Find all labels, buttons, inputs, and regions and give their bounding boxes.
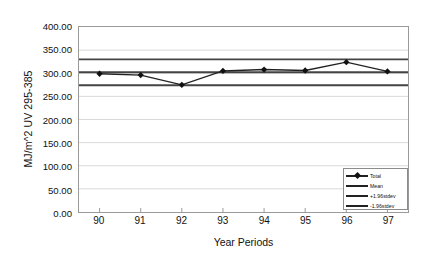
y-axis-tick-label: 300.00 bbox=[18, 67, 72, 78]
x-axis-tick-label: 97 bbox=[368, 215, 408, 226]
y-axis-tick-label: 200.00 bbox=[18, 114, 72, 125]
y-axis-tick-label: 0.00 bbox=[18, 208, 72, 219]
chart-legend: TotalMean+1.96stdev-1.96stdev bbox=[343, 168, 408, 210]
legend-item: -1.96stdev bbox=[346, 201, 407, 211]
legend-item-label: +1.96stdev bbox=[370, 193, 396, 199]
y-axis-tick-label: 100.00 bbox=[18, 161, 72, 172]
x-axis-tick-label: 91 bbox=[120, 215, 160, 226]
legend-item: Mean bbox=[346, 181, 407, 191]
y-axis-tick-label: 50.00 bbox=[18, 184, 72, 195]
x-axis-tick-label: 92 bbox=[161, 215, 201, 226]
x-axis-tick-label: 94 bbox=[244, 215, 284, 226]
legend-item-label: Mean bbox=[370, 183, 383, 189]
legend-swatch-icon bbox=[346, 201, 368, 210]
data-point-marker bbox=[179, 82, 185, 88]
y-axis-tick-label: 150.00 bbox=[18, 137, 72, 148]
y-axis-tick-label: 400.00 bbox=[18, 21, 72, 32]
legend-item-label: Total bbox=[370, 173, 381, 179]
y-axis-tick-labels: 0.0050.00100.00150.00200.00250.00300.003… bbox=[18, 20, 72, 220]
legend-item: Total bbox=[346, 171, 407, 181]
legend-item: +1.96stdev bbox=[346, 191, 407, 201]
legend-swatch-icon bbox=[346, 171, 368, 180]
x-axis-tick-labels: 9091929394959697 bbox=[78, 215, 409, 231]
chart-container: MJ/m^2 UV 295-385 0.0050.00100.00150.002… bbox=[0, 0, 428, 267]
legend-swatch-icon bbox=[346, 181, 368, 190]
legend-item-label: -1.96stdev bbox=[370, 203, 394, 209]
x-axis-title: Year Periods bbox=[78, 236, 409, 248]
x-axis-tick-label: 95 bbox=[286, 215, 326, 226]
x-axis-tick-label: 93 bbox=[203, 215, 243, 226]
y-axis-tick-label: 350.00 bbox=[18, 44, 72, 55]
x-axis-tick-label: 90 bbox=[79, 215, 119, 226]
x-axis-tick-label: 96 bbox=[327, 215, 367, 226]
legend-swatch-icon bbox=[346, 191, 368, 200]
y-axis-tick-label: 250.00 bbox=[18, 91, 72, 102]
legend-diamond-marker-icon bbox=[354, 172, 361, 179]
